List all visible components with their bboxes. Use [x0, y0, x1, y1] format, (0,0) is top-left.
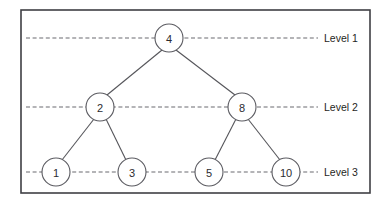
node-10-value: 10	[280, 167, 292, 179]
node-2-value: 2	[97, 102, 103, 114]
diagram-canvas: 42813510 Level 1Level 2Level 3	[0, 0, 383, 206]
node-5-value: 5	[206, 167, 212, 179]
node-2[interactable]: 2	[86, 93, 114, 121]
level-1-label: Level 1	[324, 32, 358, 44]
node-3[interactable]: 3	[118, 158, 146, 186]
node-8[interactable]: 8	[228, 93, 256, 121]
node-8-value: 8	[239, 102, 245, 114]
node-1-value: 1	[53, 167, 59, 179]
node-10[interactable]: 10	[272, 158, 300, 186]
level-3-label: Level 3	[324, 166, 358, 178]
node-4-value: 4	[166, 33, 172, 45]
node-5[interactable]: 5	[195, 158, 223, 186]
level-2-label: Level 2	[324, 101, 358, 113]
node-4[interactable]: 4	[155, 24, 183, 52]
node-1[interactable]: 1	[42, 158, 70, 186]
binary-tree-diagram: 42813510 Level 1Level 2Level 3	[0, 0, 383, 206]
node-3-value: 3	[129, 167, 135, 179]
